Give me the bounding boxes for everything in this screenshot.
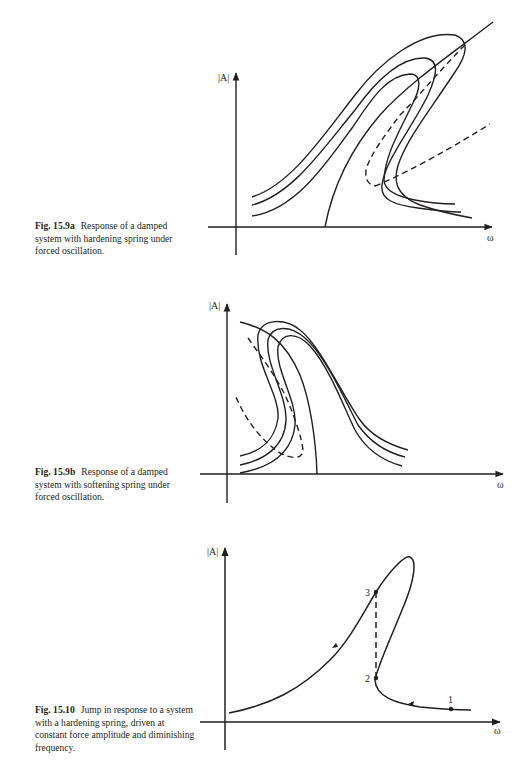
plot-fig-15-9a (208, 22, 493, 255)
response-curve (240, 322, 408, 456)
response-curve (229, 557, 471, 713)
point-1 (449, 707, 453, 711)
plot-fig-15-9b (200, 304, 503, 503)
x-axis-label: ω (487, 232, 494, 243)
response-curve (252, 58, 461, 212)
response-curve (252, 74, 455, 216)
direction-arrow-icon (332, 643, 338, 648)
point-label-1: 1 (448, 694, 453, 705)
point-label-2: 2 (365, 673, 370, 684)
y-axis-label: |A| (207, 546, 218, 557)
y-axis-label: |A| (209, 300, 220, 311)
backbone-curve (325, 22, 493, 227)
x-axis-label: ω (494, 725, 501, 736)
plot-fig-15-10 (200, 548, 500, 750)
y-axis-label: |A| (218, 72, 229, 83)
unstable-locus (375, 124, 490, 186)
point-3 (374, 590, 378, 594)
figures-canvas: |A| ω |A| ω 1 2 3 |A| ω (0, 0, 529, 771)
point-label-3: 3 (365, 587, 370, 598)
point-2 (374, 676, 378, 680)
x-axis-label: ω (497, 479, 504, 490)
